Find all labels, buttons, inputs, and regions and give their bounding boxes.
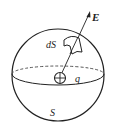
- gauss-law-diagram: E dS q S: [0, 0, 114, 129]
- field-arrowhead-icon: [87, 11, 91, 18]
- label-q: q: [75, 73, 80, 84]
- label-dS: dS: [46, 39, 56, 50]
- label-E: E: [91, 11, 99, 23]
- label-S: S: [50, 107, 55, 118]
- surface-element-patch: [64, 36, 82, 54]
